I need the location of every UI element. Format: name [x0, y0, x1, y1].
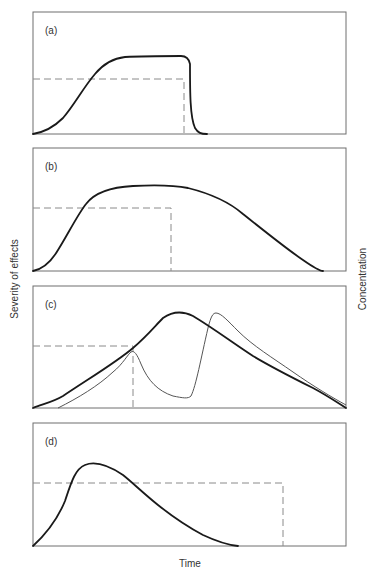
severity-curve [33, 185, 323, 271]
concentration-dashed-line [33, 483, 283, 546]
concentration-dashed-line [33, 346, 133, 408]
concentration-dashed-line [33, 79, 184, 134]
concentration-curve [58, 313, 346, 408]
x-axis-label: Time [179, 558, 201, 569]
panel-d: (d) [33, 423, 346, 546]
y-axis-left-label: Severity of effects [9, 239, 20, 318]
panel-c: (c) [33, 286, 346, 408]
severity-curve [33, 312, 346, 408]
severity-curve [33, 463, 238, 546]
figure-canvas: (a) (b) (c) (d) Severity of effects Conc… [0, 0, 379, 579]
panel-a: (a) [33, 12, 346, 134]
severity-curve [33, 56, 207, 134]
concentration-dashed-line [33, 208, 171, 271]
panel-frame [33, 148, 346, 271]
panel-label: (b) [45, 161, 57, 172]
panel-label: (a) [45, 25, 57, 36]
panel-frame [33, 286, 346, 408]
panel-label: (d) [45, 436, 57, 447]
panel-b: (b) [33, 148, 346, 271]
panel-label: (c) [45, 299, 57, 310]
y-axis-right-label: Concentration [357, 248, 368, 310]
